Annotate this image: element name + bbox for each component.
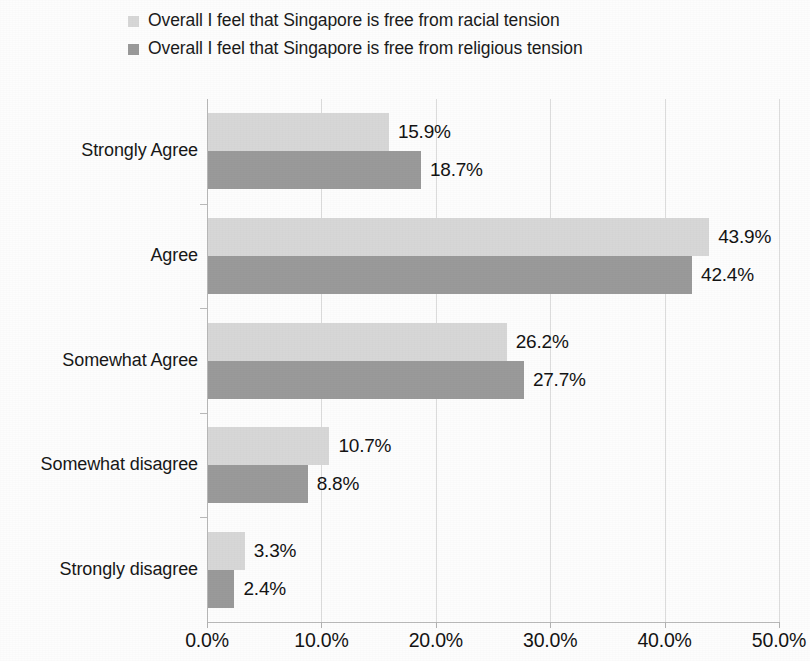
value-axis-labels: 0.0%10.0%20.0%30.0%40.0%50.0% xyxy=(0,629,810,661)
legend-item-racial: Overall I feel that Singapore is free fr… xyxy=(128,6,788,34)
bar-value-label: 15.9% xyxy=(398,121,451,143)
category-axis-tick xyxy=(200,517,207,518)
bar[interactable] xyxy=(207,113,389,151)
bar[interactable] xyxy=(207,427,329,465)
legend-swatch-religious-icon xyxy=(128,44,139,55)
bar[interactable] xyxy=(207,256,692,294)
bar[interactable] xyxy=(207,465,308,503)
legend-label-religious: Overall I feel that Singapore is free fr… xyxy=(148,38,583,59)
value-axis-tick xyxy=(436,622,437,628)
bar-group: 43.9%42.4% xyxy=(207,218,779,294)
chart-page: Overall I feel that Singapore is free fr… xyxy=(0,0,810,661)
value-axis-tick xyxy=(665,622,666,628)
bar-value-label: 8.8% xyxy=(317,473,360,495)
bar[interactable] xyxy=(207,218,709,256)
bar-value-label: 27.7% xyxy=(533,369,586,391)
bar-row: 10.7% xyxy=(207,427,779,465)
bar[interactable] xyxy=(207,532,245,570)
category-axis-labels: Strongly AgreeAgreeSomewhat AgreeSomewha… xyxy=(0,99,207,622)
value-axis-tick xyxy=(207,622,208,628)
bar-group: 10.7%8.8% xyxy=(207,427,779,503)
bar-row: 43.9% xyxy=(207,218,779,256)
value-axis-label: 50.0% xyxy=(752,629,806,652)
value-axis-label: 20.0% xyxy=(409,629,463,652)
bar-row: 18.7% xyxy=(207,151,779,189)
bar-value-label: 43.9% xyxy=(718,226,771,248)
value-axis-label: 40.0% xyxy=(637,629,691,652)
legend-swatch-racial-icon xyxy=(128,16,139,27)
bar-value-label: 42.4% xyxy=(701,264,754,286)
bar-group: 26.2%27.7% xyxy=(207,323,779,399)
value-axis-label: 10.0% xyxy=(294,629,348,652)
bar-row: 3.3% xyxy=(207,532,779,570)
category-label: Agree xyxy=(7,245,207,266)
bar[interactable] xyxy=(207,361,524,399)
bar-value-label: 26.2% xyxy=(516,331,569,353)
value-axis-tick xyxy=(321,622,322,628)
bar-row: 42.4% xyxy=(207,256,779,294)
chart-legend: Overall I feel that Singapore is free fr… xyxy=(128,6,788,62)
gridline xyxy=(779,99,780,622)
bar[interactable] xyxy=(207,570,234,608)
bar-row: 8.8% xyxy=(207,465,779,503)
bar-row: 26.2% xyxy=(207,323,779,361)
bar-value-label: 18.7% xyxy=(430,159,483,181)
value-axis-tick xyxy=(779,622,780,628)
value-axis-label: 30.0% xyxy=(523,629,577,652)
category-axis-tick xyxy=(200,308,207,309)
bar[interactable] xyxy=(207,151,421,189)
bar-value-label: 2.4% xyxy=(243,578,286,600)
category-label: Somewhat disagree xyxy=(7,454,207,475)
legend-item-religious: Overall I feel that Singapore is free fr… xyxy=(128,34,788,62)
bar-row: 15.9% xyxy=(207,113,779,151)
value-axis-tick xyxy=(550,622,551,628)
category-label: Somewhat Agree xyxy=(7,350,207,371)
bar-row: 2.4% xyxy=(207,570,779,608)
category-axis-tick xyxy=(200,413,207,414)
plot-area: 15.9%18.7%43.9%42.4%26.2%27.7%10.7%8.8%3… xyxy=(207,99,779,622)
category-label: Strongly disagree xyxy=(7,559,207,580)
bar[interactable] xyxy=(207,323,507,361)
category-axis-tick xyxy=(200,204,207,205)
bar-group: 15.9%18.7% xyxy=(207,113,779,189)
category-label: Strongly Agree xyxy=(7,140,207,161)
bar-value-label: 10.7% xyxy=(338,435,391,457)
value-axis-line xyxy=(207,99,208,623)
value-axis-label: 0.0% xyxy=(185,629,229,652)
category-axis-line xyxy=(207,622,780,623)
bar-value-label: 3.3% xyxy=(254,540,297,562)
legend-label-racial: Overall I feel that Singapore is free fr… xyxy=(148,10,560,31)
bar-group: 3.3%2.4% xyxy=(207,532,779,608)
bar-row: 27.7% xyxy=(207,361,779,399)
